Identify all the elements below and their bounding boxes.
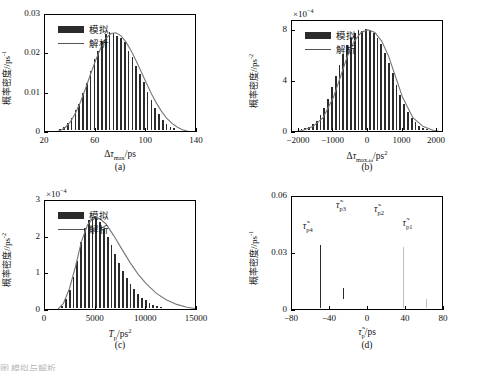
ytick-mark <box>44 200 48 201</box>
xtick-mark <box>145 306 146 310</box>
xtick-a: 140 <box>171 136 221 145</box>
ytick-b: 0 <box>257 127 287 136</box>
xtick-mark <box>367 128 368 132</box>
xtick-mark <box>367 306 368 310</box>
xtick-mark <box>95 128 96 132</box>
ytick-mark <box>291 81 295 82</box>
ytick-c: 0 <box>10 305 40 314</box>
axis-multiplier-c: ×10−4 <box>46 188 67 199</box>
histogram-d-τ̃p1 <box>292 197 442 309</box>
ytick-mark <box>44 132 48 133</box>
xtick-mark <box>196 128 197 132</box>
legend-swatch-bar <box>58 212 84 219</box>
xlabel-b: Δτmax,ω/ps2 <box>291 149 443 163</box>
xtick-mark <box>44 306 45 310</box>
xtick-a: 20 <box>19 136 69 145</box>
ytick-mark <box>291 253 295 254</box>
legend-label-analytical: 解析 <box>336 44 356 56</box>
subplot-caption-b: (b) <box>291 162 443 172</box>
ytick-a: 0.03 <box>10 9 40 18</box>
ytick-mark <box>44 53 48 54</box>
xtick-mark <box>443 306 444 310</box>
group-label-p1: τ̃p1 <box>403 218 413 230</box>
legend-swatch-line <box>305 49 331 50</box>
xtick-mark <box>95 306 96 310</box>
histogram-bar <box>432 307 434 309</box>
subplot-caption-c: (c) <box>44 340 196 350</box>
ytick-mark <box>291 132 295 133</box>
legend-item-analytical: 解析 <box>58 38 109 49</box>
ytick-mark <box>44 237 48 238</box>
xtick-a: 100 <box>120 136 170 145</box>
ytick-d: 0.03 <box>257 248 287 257</box>
xtick-mark <box>298 128 299 132</box>
group-label-p4: τ̃p4 <box>303 221 313 233</box>
xtick-mark <box>44 128 45 132</box>
xtick-c: 0 <box>19 314 69 323</box>
ytick-mark <box>44 310 48 311</box>
group-label-p3: τ̃p3 <box>336 200 346 212</box>
xtick-mark <box>405 306 406 310</box>
legend-swatch-bar <box>58 26 84 33</box>
axis-multiplier-b: ×10−4 <box>293 8 314 19</box>
group-label-p2: τ̃p2 <box>374 204 384 216</box>
xtick-d: 80 <box>418 314 468 323</box>
xtick-a: 60 <box>70 136 120 145</box>
xtick-mark <box>332 128 333 132</box>
ylabel-b: 概率密度//ps-2 <box>247 54 260 108</box>
ylabel-c: 概率密度//ps-2 <box>0 233 13 287</box>
ytick-c: 3 <box>10 195 40 204</box>
legend-label-analytical: 解析 <box>89 224 109 236</box>
legend-label-simulation: 模拟 <box>336 30 356 42</box>
xtick-c: 15000 <box>171 314 221 323</box>
ytick-a: 0.02 <box>10 48 40 57</box>
xtick-c: 5000 <box>70 314 120 323</box>
legend-label-simulation: 模拟 <box>89 24 109 36</box>
legend-item-simulation: 模拟 <box>58 210 109 221</box>
ytick-a: 0 <box>10 127 40 136</box>
legend-label-simulation: 模拟 <box>89 210 109 222</box>
legend-swatch-line <box>58 229 84 230</box>
ytick-d: 0.06 <box>257 191 287 200</box>
ylabel-a: 概率密度//ps-1 <box>0 51 13 105</box>
ylabel-d: 概率密度//ps-1 <box>247 231 260 285</box>
ytick-mark <box>44 93 48 94</box>
xtick-mark <box>329 306 330 310</box>
legend-swatch-bar <box>305 32 331 39</box>
xlabel-c: Tp/ps2 <box>44 327 196 341</box>
legend-label-analytical: 解析 <box>89 38 109 50</box>
xtick-mark <box>402 128 403 132</box>
legend-item-simulation: 模拟 <box>305 30 356 41</box>
legend-item-analytical: 解析 <box>305 44 356 55</box>
xtick-c: 10000 <box>120 314 170 323</box>
subplot-caption-d: (d) <box>291 340 443 350</box>
legend-b: 模拟解析 <box>305 30 356 58</box>
ytick-a: 0.01 <box>10 88 40 97</box>
figure-bottom-caption: 图 模拟与解析… <box>0 362 494 371</box>
ytick-mark <box>44 273 48 274</box>
xtick-b: 2000 <box>411 136 461 145</box>
ytick-mark <box>291 196 295 197</box>
legend-c: 模拟解析 <box>58 210 109 238</box>
xtick-mark <box>196 306 197 310</box>
plot-area-d <box>291 196 443 310</box>
xtick-mark <box>145 128 146 132</box>
ytick-b: 4 <box>257 76 287 85</box>
ytick-mark <box>291 30 295 31</box>
ytick-c: 2 <box>10 232 40 241</box>
xtick-mark <box>436 128 437 132</box>
xlabel-d: τ̃p/ps <box>291 327 443 339</box>
ytick-c: 1 <box>10 268 40 277</box>
ytick-mark <box>291 310 295 311</box>
figure-container: 00.010.020.032060100140概率密度//ps-1Δτmax/p… <box>0 0 494 371</box>
xtick-mark <box>291 306 292 310</box>
legend-item-analytical: 解析 <box>58 224 109 235</box>
subplot-caption-a: (a) <box>44 162 196 172</box>
legend-item-simulation: 模拟 <box>58 24 109 35</box>
legend-a: 模拟解析 <box>58 24 109 52</box>
xlabel-a: Δτmax/ps <box>44 149 196 161</box>
ytick-mark <box>44 14 48 15</box>
ytick-d: 0 <box>257 305 287 314</box>
ytick-b: 8 <box>257 25 287 34</box>
legend-swatch-line <box>58 43 84 44</box>
